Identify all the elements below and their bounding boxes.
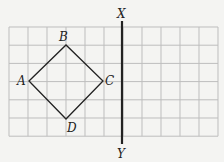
label-b: B xyxy=(58,30,68,44)
label-d: D xyxy=(66,121,77,135)
label-x: X xyxy=(116,7,126,21)
label-a: A xyxy=(16,74,26,88)
label-y: Y xyxy=(117,147,126,161)
diagram-svg: A B C D X Y xyxy=(0,0,224,162)
reflection-diagram: A B C D X Y xyxy=(0,0,224,162)
label-c: C xyxy=(105,74,114,88)
